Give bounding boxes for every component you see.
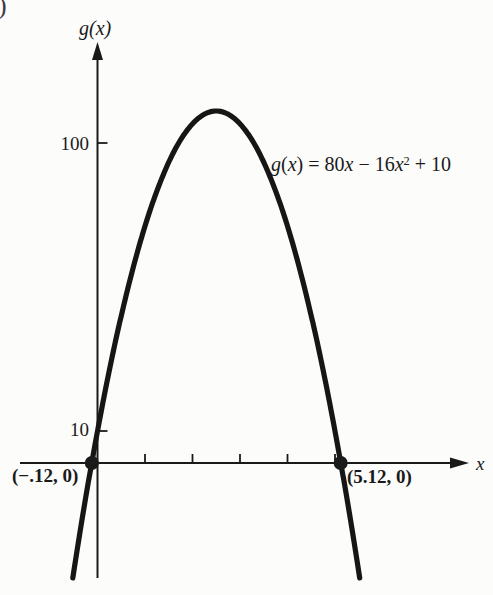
y-axis-title: g(x)	[79, 18, 111, 38]
function-equation-label: g(x) = 80x − 16x2 + 10	[271, 154, 451, 174]
x-intercept-point	[334, 456, 348, 470]
y-tick-label-10: 10	[40, 420, 89, 439]
y-tick-label-100: 100	[40, 134, 89, 153]
graph-canvas	[0, 0, 493, 595]
left-intercept-label: (−.12, 0)	[12, 466, 78, 485]
y-axis-arrow-icon	[92, 42, 103, 60]
x-axis-title: x	[476, 454, 484, 473]
parabola-curve	[73, 111, 360, 578]
x-axis-arrow-icon	[450, 458, 469, 469]
cropped-problem-label-fragment: )	[0, 0, 7, 19]
y-axis	[92, 42, 103, 578]
right-intercept-label: (5.12, 0)	[347, 467, 412, 486]
quadratic-graph-figure: ) g(x) 100 10 g(x) = 80x − 16x2 + 10 (−.…	[0, 0, 493, 595]
x-intercept-point	[85, 456, 99, 470]
